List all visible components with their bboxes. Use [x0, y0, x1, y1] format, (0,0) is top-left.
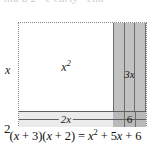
equation-caption: (x + 3)(x + 2) = x2 + 5x + 6	[0, 129, 151, 144]
cell-two-x-label: 2x	[59, 113, 73, 125]
cell-two-x: 2x	[19, 111, 113, 127]
cell-x-squared-label-exponent: 2	[67, 59, 71, 68]
equation-rhs-tail: + 6	[122, 129, 141, 143]
equation-lhs-a-rest: + 3)(	[19, 129, 46, 143]
rectangle-area-model: x2 3x 2x 6	[18, 22, 147, 126]
cell-three-x: 3x	[113, 23, 146, 111]
unit-column-2	[125, 23, 136, 111]
unit-column-1	[113, 23, 125, 111]
cell-x-squared-label: x2	[61, 60, 70, 75]
cell-six-label: 6	[127, 113, 133, 125]
cell-six: 6	[113, 111, 146, 127]
clipped-text-bleed-content: ind a 2 · e early · elm	[4, 0, 104, 4]
equation-rhs-middle: + 5	[98, 129, 117, 143]
cell-x-squared: x2	[19, 23, 113, 111]
cell-three-x-label: 3x	[124, 68, 134, 80]
area-model-figure: x 3 x 2 x2 3x 2x 6	[0, 11, 151, 128]
equation-lhs-b-rest: + 2) =	[52, 129, 88, 143]
unit-gridline-h1	[113, 111, 146, 112]
clipped-text-bleed: ind a 2 · e early · elm	[0, 0, 151, 11]
unit-column-3	[135, 23, 146, 111]
dimension-label-left-x: x	[5, 63, 10, 78]
